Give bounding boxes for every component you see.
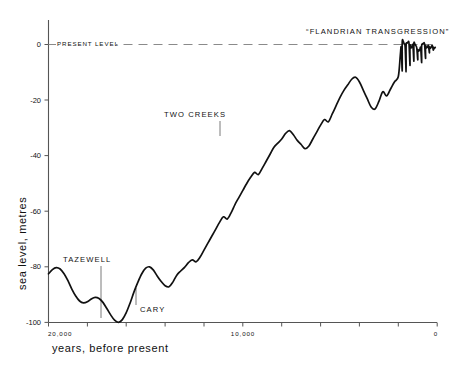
y-tick-marks (45, 45, 49, 323)
x-axis-title: years, before present (52, 342, 169, 354)
sea-level-chart: 0 -20 -40 -60 -80 -100 20,000 10,000 0 (0, 0, 458, 366)
annotation-two-creeks: TWO CREEKS (164, 110, 226, 136)
y-axis-title: sea level, metres (16, 197, 28, 290)
x-tick-label-20000: 20,000 (48, 330, 72, 337)
x-tick-marks (49, 323, 438, 327)
y-tick-label-40: -40 (30, 151, 41, 160)
y-tick-label-80: -80 (30, 262, 41, 271)
x-tick-label-10000: 10,000 (231, 330, 255, 337)
x-tick-label-0: 0 (434, 330, 438, 337)
y-tick-labels: 0 -20 -40 -60 -80 -100 (26, 40, 41, 327)
y-tick-label-0: 0 (37, 40, 41, 49)
sea-level-curve (49, 40, 436, 323)
annotation-flandrian: “FLANDRIAN TRANSGRESSION” (306, 27, 449, 36)
cary-label: CARY (140, 305, 165, 314)
annotation-present-level: PRESENT LEVEL (56, 38, 119, 48)
y-tick-label-20: -20 (30, 96, 41, 105)
axis-lines (49, 20, 438, 323)
flandrian-transgression-label: “FLANDRIAN TRANSGRESSION” (306, 27, 449, 36)
present-level-label: PRESENT LEVEL (57, 40, 119, 47)
annotation-cary: CARY (136, 288, 165, 314)
tazewell-label: TAZEWELL (63, 255, 111, 264)
x-tick-labels: 20,000 10,000 0 (48, 330, 438, 337)
y-tick-label-100: -100 (26, 318, 41, 327)
y-tick-label-60: -60 (30, 207, 41, 216)
two-creeks-label: TWO CREEKS (164, 110, 226, 119)
chart-svg: 0 -20 -40 -60 -80 -100 20,000 10,000 0 (0, 0, 458, 366)
